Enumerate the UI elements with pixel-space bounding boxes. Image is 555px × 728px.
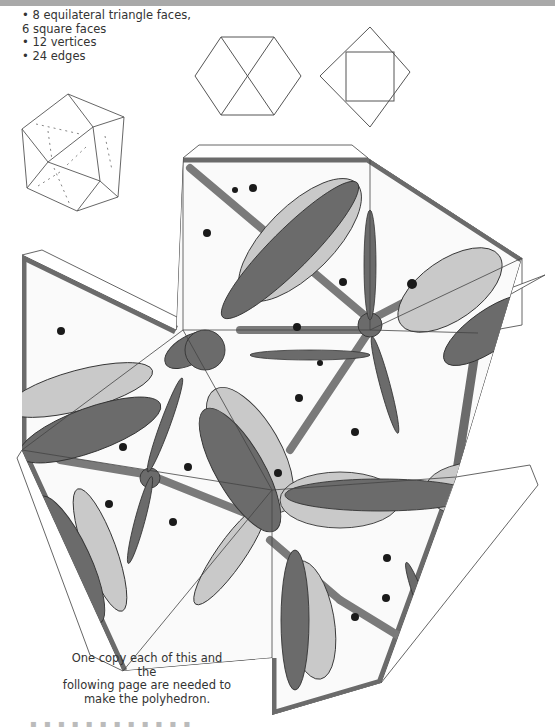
note-line: make the polyhedron.: [62, 693, 232, 707]
footer-fragment: ▪ ▪ ▪ ▪ ▪ ▪ ▪ ▪ ▪ ▪ ▪ ▪: [30, 718, 230, 728]
note-line: One copy each of this and the: [62, 652, 232, 679]
square-view-icon: [320, 27, 410, 127]
cuboctahedron-view-icon: [22, 94, 124, 211]
note-line: following page are needed to: [62, 679, 232, 693]
hexagon-view-icon: [195, 37, 301, 115]
net-artwork: [0, 0, 555, 728]
instruction-note: One copy each of this and the following …: [62, 652, 232, 706]
